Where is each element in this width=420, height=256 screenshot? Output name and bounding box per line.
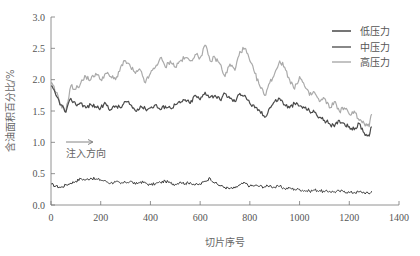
y-tick-label: 0.0 [33,200,46,211]
legend-label: 高压力 [360,56,390,68]
legend-item: 中压力 [332,41,390,53]
x-tick-label: 200 [93,212,108,223]
y-axis-title: 含油面积百分比/% [4,70,16,153]
line-chart: 0.00.51.01.52.02.53.00200400600800100012… [0,0,420,256]
y-tick-label: 3.0 [33,12,46,23]
y-tick-label: 2.0 [33,74,46,85]
x-axis-title: 切片序号 [205,236,245,248]
x-tick-label: 1000 [290,212,310,223]
x-tick-label: 0 [49,212,54,223]
legend: 低压力中压力高压力 [332,25,390,68]
legend-label: 中压力 [360,41,390,53]
x-tick-label: 1200 [339,212,359,223]
axes: 0.00.51.01.52.02.53.00200400600800100012… [33,12,410,224]
x-tick-label: 400 [143,212,158,223]
series-layer [51,45,372,194]
y-tick-label: 1.0 [33,137,46,148]
legend-item: 低压力 [332,25,390,37]
series-line-mid-pressure [51,86,372,136]
legend-item: 高压力 [332,56,390,68]
y-tick-label: 0.5 [33,168,46,179]
injection-direction-annotation: 注入方向 [66,140,106,160]
y-tick-label: 2.5 [33,43,46,54]
x-tick-label: 1400 [389,212,409,223]
x-tick-label: 800 [242,212,257,223]
annotation-label: 注入方向 [66,147,106,159]
series-line-low-pressure [51,177,372,194]
series-line-high-pressure [51,45,372,126]
y-tick-label: 1.5 [33,106,46,117]
x-tick-label: 600 [193,212,208,223]
legend-label: 低压力 [360,25,390,37]
